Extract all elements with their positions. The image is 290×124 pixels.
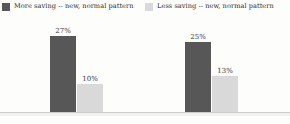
bar-value-label: 27% bbox=[50, 27, 76, 35]
legend-swatch-icon bbox=[145, 3, 153, 11]
chart-legend: More saving -- new, normal pattern Less … bbox=[0, 0, 290, 16]
bar-rect bbox=[77, 84, 103, 112]
bar-rect bbox=[212, 76, 238, 112]
legend-swatch-icon bbox=[2, 3, 10, 11]
axis-baseline bbox=[0, 112, 290, 113]
plot-area: 27% 10% 25% 13% bbox=[0, 16, 290, 124]
legend-entry-less-saving: Less saving -- new, normal pattern bbox=[145, 2, 274, 11]
bar-chart: More saving -- new, normal pattern Less … bbox=[0, 0, 290, 124]
bar-rect bbox=[185, 42, 211, 112]
bar-group: 27% 10% bbox=[50, 28, 106, 112]
bar-rect bbox=[50, 36, 76, 112]
axis-baseline-shadow bbox=[0, 113, 290, 116]
bar-value-label: 10% bbox=[77, 75, 103, 83]
legend-label: Less saving -- new, normal pattern bbox=[157, 2, 274, 11]
bar-value-label: 13% bbox=[212, 67, 238, 75]
legend-entry-more-saving: More saving -- new, normal pattern bbox=[2, 2, 134, 11]
legend-label: More saving -- new, normal pattern bbox=[14, 2, 134, 11]
bar-value-label: 25% bbox=[185, 33, 211, 41]
bar-group: 25% 13% bbox=[185, 28, 241, 112]
